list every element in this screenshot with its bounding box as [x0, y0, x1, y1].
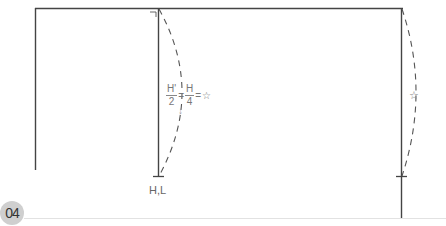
- star-icon: ☆: [409, 90, 419, 101]
- bottom-divider: [24, 218, 446, 219]
- formula: H' 2 = H 4 = ☆: [166, 84, 211, 107]
- star-icon: ☆: [202, 90, 211, 101]
- corner-mark: [150, 12, 156, 17]
- arrow-down-icon: ↓: [178, 106, 183, 116]
- step-number-badge: 04: [0, 201, 24, 225]
- fraction-h-prime-over-2: H' 2: [166, 84, 177, 107]
- pattern-diagram: [0, 0, 446, 226]
- fraction-h-over-4: H 4: [185, 84, 194, 107]
- hl-label: H,L: [149, 185, 166, 196]
